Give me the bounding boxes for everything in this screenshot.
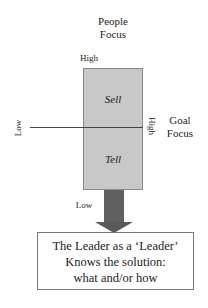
goal-axis-line: [30, 127, 143, 128]
people-focus-line1: People: [82, 15, 144, 28]
result-line2: Knows the solution:: [38, 254, 193, 270]
quadrant-sell: Sell: [83, 93, 143, 105]
goal-focus-high-label: High: [147, 113, 157, 139]
people-focus-low-label: Low: [72, 200, 96, 210]
down-arrow-icon: [94, 190, 134, 234]
goal-focus-line1: Goal: [160, 114, 200, 127]
people-focus-title: People Focus: [82, 15, 144, 41]
goal-focus-title: Goal Focus: [160, 114, 200, 140]
result-line3: what and/or how: [38, 270, 193, 286]
people-focus-line2: Focus: [82, 28, 144, 41]
quadrant-tell: Tell: [83, 153, 143, 165]
goal-focus-low-label: Low: [13, 116, 23, 140]
leader-result-box: The Leader as a ‘Leader’ Knows the solut…: [37, 232, 194, 290]
leadership-quadrant: Sell Tell: [83, 68, 143, 190]
goal-focus-line2: Focus: [160, 127, 200, 140]
people-focus-high-label: High: [74, 53, 104, 63]
result-line1: The Leader as a ‘Leader’: [38, 238, 193, 254]
